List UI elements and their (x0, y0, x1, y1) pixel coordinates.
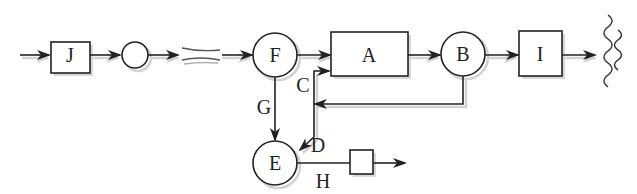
flow-diagram: J F A B I E C G D H (0, 0, 637, 194)
label-F: F (269, 44, 280, 66)
label-D: D (311, 134, 325, 156)
label-A: A (362, 44, 377, 66)
node-small-box (350, 150, 373, 174)
label-H: H (316, 170, 330, 192)
label-G: G (257, 96, 271, 118)
shadow-layer (22, 34, 595, 188)
label-B: B (456, 43, 469, 65)
label-I: I (537, 43, 544, 65)
edges (20, 55, 595, 163)
label-C: C (296, 74, 309, 96)
break-symbol (182, 48, 220, 64)
edge-B-feedback (315, 76, 463, 104)
node-blank-circle (122, 42, 148, 68)
nodes (51, 31, 562, 185)
label-J: J (66, 44, 74, 66)
label-E: E (269, 152, 281, 174)
wavy-end-icon (604, 15, 622, 87)
